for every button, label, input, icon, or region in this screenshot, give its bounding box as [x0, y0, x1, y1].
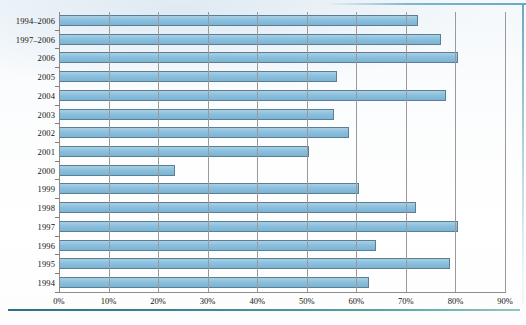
- gridline-90pct: [505, 12, 506, 293]
- bar-2001[interactable]: [59, 146, 309, 157]
- bar-row: [59, 31, 505, 50]
- y-axis-label-2000: 2000: [0, 162, 55, 181]
- bar-row: [59, 68, 505, 87]
- x-axis-label-80pct: 80%: [448, 296, 464, 306]
- gridline-0pct: [59, 12, 60, 293]
- bar-2006[interactable]: [59, 52, 458, 63]
- y-axis-label-2002: 2002: [0, 124, 55, 143]
- y-axis-label-1999: 1999: [0, 180, 55, 199]
- gridline-30pct: [208, 12, 209, 293]
- x-axis-label-50pct: 50%: [299, 296, 315, 306]
- bar-1999[interactable]: [59, 183, 359, 194]
- bar-row: [59, 237, 505, 256]
- y-axis-label-2001: 2001: [0, 143, 55, 162]
- bar-row: [59, 180, 505, 199]
- x-axis-label-40pct: 40%: [249, 296, 265, 306]
- gridline-10pct: [109, 12, 110, 293]
- x-axis-label-20pct: 20%: [150, 296, 166, 306]
- bar-row: [59, 124, 505, 143]
- bar-2004[interactable]: [59, 90, 446, 101]
- y-axis-label-1998: 1998: [0, 199, 55, 218]
- bar-row: [59, 255, 505, 274]
- x-axis-label-70pct: 70%: [398, 296, 414, 306]
- x-axis-label-60pct: 60%: [349, 296, 365, 306]
- bar-rows: [59, 12, 505, 293]
- page-bottom-rule: [8, 309, 520, 311]
- x-axis-label-0pct: 0%: [53, 296, 64, 306]
- bar-2003[interactable]: [59, 109, 334, 120]
- gridline-60pct: [356, 12, 357, 293]
- y-axis-label-1996: 1996: [0, 237, 55, 256]
- bar-1998[interactable]: [59, 202, 416, 213]
- gridline-40pct: [257, 12, 258, 293]
- y-axis-label-1994-2006: 1994–2006: [0, 12, 55, 31]
- gridline-70pct: [406, 12, 407, 293]
- chart-page: 1994–20061997–20062006200520042003200220…: [0, 0, 526, 325]
- bar-row: [59, 199, 505, 218]
- bar-1995[interactable]: [59, 258, 450, 269]
- y-axis-label-1994: 1994: [0, 274, 55, 293]
- plot-area: [59, 12, 505, 293]
- gridline-50pct: [307, 12, 308, 293]
- bar-1994[interactable]: [59, 277, 369, 288]
- bar-row: [59, 218, 505, 237]
- bar-row: [59, 162, 505, 181]
- y-axis-label-1997: 1997: [0, 218, 55, 237]
- figure-caption: [8, 314, 438, 325]
- bar-1996[interactable]: [59, 240, 376, 251]
- y-axis-label-2004: 2004: [0, 87, 55, 106]
- bar-2002[interactable]: [59, 127, 349, 138]
- bar-row: [59, 274, 505, 293]
- bar-2005[interactable]: [59, 71, 337, 82]
- bar-row: [59, 87, 505, 106]
- y-axis-label-2006: 2006: [0, 49, 55, 68]
- y-axis-labels: 1994–20061997–20062006200520042003200220…: [0, 12, 55, 293]
- y-axis-label-1997-2006: 1997–2006: [0, 31, 55, 50]
- bar-row: [59, 49, 505, 68]
- x-axis-label-90pct: 90%: [497, 296, 513, 306]
- x-axis-label-30pct: 30%: [200, 296, 216, 306]
- gridline-80pct: [455, 12, 456, 293]
- bar-row: [59, 12, 505, 31]
- y-axis-label-1995: 1995: [0, 255, 55, 274]
- bar-row: [59, 106, 505, 125]
- bar-1997[interactable]: [59, 221, 458, 232]
- x-axis-label-10pct: 10%: [101, 296, 117, 306]
- y-axis-label-2003: 2003: [0, 106, 55, 125]
- bar-row: [59, 143, 505, 162]
- bar-1994-2006[interactable]: [59, 15, 418, 26]
- gridline-20pct: [158, 12, 159, 293]
- horizontal-bar-chart: 1994–20061997–20062006200520042003200220…: [0, 0, 526, 300]
- y-axis-label-2005: 2005: [0, 68, 55, 87]
- x-axis-line: [59, 292, 506, 293]
- bar-1997-2006[interactable]: [59, 34, 441, 45]
